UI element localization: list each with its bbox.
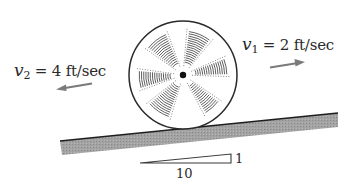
v2-subscript: 2 xyxy=(23,69,30,82)
v2-value: 4 ft/sec xyxy=(52,62,106,80)
wheel-axle-dot xyxy=(180,72,186,78)
slope-triangle xyxy=(140,154,231,163)
v1-value: 2 ft/sec xyxy=(280,36,334,54)
slope-run-label: 10 xyxy=(176,166,193,181)
arrow-right-icon xyxy=(270,59,305,68)
diagram-canvas xyxy=(0,0,357,188)
velocity-label-v2: v2 = 4 ft/sec xyxy=(14,60,106,82)
wheel xyxy=(129,21,237,129)
v1-symbol: v xyxy=(242,34,251,54)
v1-subscript: 1 xyxy=(251,43,258,56)
v2-equals: = xyxy=(35,62,47,80)
v2-symbol: v xyxy=(14,60,23,80)
slope-rise-label: 1 xyxy=(235,151,243,166)
v1-equals: = xyxy=(263,36,275,54)
arrow-left-icon xyxy=(56,84,92,92)
velocity-label-v1: v1 = 2 ft/sec xyxy=(242,34,334,56)
